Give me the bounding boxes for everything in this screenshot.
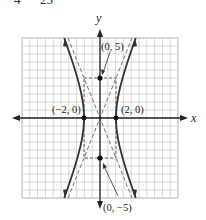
hyperbola-graph: x y (0, 5) (0, −5) (−2, 0) (2, 0) bbox=[0, 0, 206, 220]
label-point-0-5: (0, 5) bbox=[101, 41, 124, 53]
y-axis-up-arrow-icon bbox=[97, 29, 103, 37]
x-axis-label: x bbox=[190, 111, 197, 125]
vertex-right bbox=[114, 116, 119, 121]
label-vertex-right: (2, 0) bbox=[121, 104, 144, 116]
point-0-neg5 bbox=[97, 155, 102, 160]
label-point-0-neg5: (0, −5) bbox=[103, 202, 132, 214]
vertex-left bbox=[82, 116, 87, 121]
label-vertex-left: (−2, 0) bbox=[52, 104, 81, 116]
x-axis-right-arrow-icon bbox=[180, 115, 188, 121]
point-0-5 bbox=[97, 75, 102, 80]
x-axis-left-arrow-icon bbox=[12, 115, 20, 121]
y-axis-label: y bbox=[95, 11, 102, 25]
